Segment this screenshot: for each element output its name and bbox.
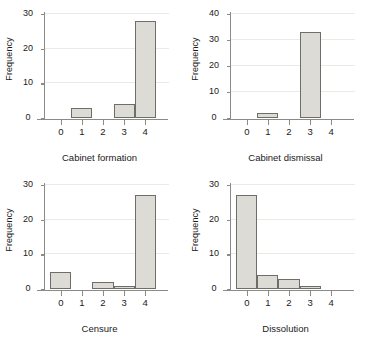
bar [300, 286, 321, 289]
y-tick [227, 185, 231, 186]
y-tick-label: 30 [204, 34, 224, 44]
y-tick-label: 10 [204, 86, 224, 96]
y-tick-label: 20 [18, 214, 38, 224]
plot-area [231, 14, 347, 118]
x-axis-title: Censure [18, 323, 181, 334]
chart-panel-1: 010203001234FrequencyCabinet formation [0, 0, 185, 171]
y-tick-label: 40 [204, 8, 224, 18]
y-axis-title-text: Frequency [190, 208, 200, 251]
bar [135, 195, 156, 289]
chart-panel-3: 010203001234FrequencyCensure [0, 171, 185, 342]
bar [135, 21, 156, 118]
x-tick [331, 120, 332, 125]
y-tick [41, 118, 45, 119]
x-tick-label: 4 [137, 126, 153, 137]
x-tick [247, 120, 248, 125]
x-tick-label: 1 [74, 126, 90, 137]
y-tick-label: 30 [18, 179, 38, 189]
x-tick [145, 120, 146, 125]
gridline [231, 91, 355, 92]
x-tick [124, 120, 125, 125]
gridline [231, 13, 355, 14]
x-tick-label: 4 [137, 297, 153, 308]
y-tick-label: 0 [18, 283, 38, 293]
gridline [45, 13, 169, 14]
x-tick-label: 1 [260, 126, 276, 137]
bar [114, 286, 135, 289]
bar [71, 108, 92, 118]
x-tick-label: 4 [323, 126, 339, 137]
bar [50, 272, 71, 289]
bar [257, 113, 278, 118]
x-tick [103, 120, 104, 125]
x-tick-label: 3 [302, 126, 318, 137]
chart-panel-4: 010203001234FrequencyDissolution [186, 171, 371, 342]
x-tick [61, 120, 62, 125]
y-tick-label: 20 [18, 43, 38, 53]
x-tick-label: 2 [95, 126, 111, 137]
x-tick-label: 0 [53, 126, 69, 137]
bar [278, 279, 299, 289]
x-tick-label: 3 [302, 297, 318, 308]
y-axis-title: Frequency [188, 0, 202, 118]
y-tick [227, 14, 231, 15]
y-axis-line [44, 12, 45, 120]
x-tick [124, 291, 125, 296]
y-tick [227, 289, 231, 290]
x-axis-title: Cabinet formation [18, 152, 181, 163]
y-tick [41, 14, 45, 15]
y-tick [227, 220, 231, 221]
y-axis-title: Frequency [188, 171, 202, 289]
x-tick-label: 2 [281, 297, 297, 308]
x-tick-label: 3 [116, 126, 132, 137]
gridline [45, 184, 169, 185]
x-tick-label: 1 [260, 297, 276, 308]
y-tick-label: 10 [18, 77, 38, 87]
y-tick [41, 185, 45, 186]
x-tick-label: 0 [53, 297, 69, 308]
x-tick [310, 291, 311, 296]
x-axis-title: Cabinet dismissal [204, 152, 367, 163]
bar [114, 104, 135, 118]
bar [236, 195, 257, 289]
bar [300, 32, 321, 118]
x-tick-label: 1 [74, 297, 90, 308]
gridline [231, 65, 355, 66]
y-tick-label: 20 [204, 60, 224, 70]
x-tick [289, 291, 290, 296]
y-axis-title-text: Frequency [190, 37, 200, 80]
x-tick-label: 4 [323, 297, 339, 308]
y-tick [227, 254, 231, 255]
chart-panel-2: 01020304001234FrequencyCabinet dismissal [186, 0, 371, 171]
x-tick-label: 2 [281, 126, 297, 137]
y-tick [41, 289, 45, 290]
y-tick [227, 118, 231, 119]
gridline [231, 39, 355, 40]
x-tick [247, 291, 248, 296]
plot-area [231, 185, 347, 289]
y-tick-label: 0 [18, 112, 38, 122]
x-tick-label: 3 [116, 297, 132, 308]
y-tick-label: 0 [204, 112, 224, 122]
x-tick [331, 291, 332, 296]
y-axis-line [230, 183, 231, 291]
y-tick-label: 30 [204, 179, 224, 189]
y-tick [227, 40, 231, 41]
x-tick [268, 291, 269, 296]
y-axis-title-text: Frequency [4, 208, 14, 251]
x-tick [103, 291, 104, 296]
x-tick-label: 0 [239, 126, 255, 137]
plot-area [45, 14, 161, 118]
x-axis-title: Dissolution [204, 323, 367, 334]
y-tick-label: 30 [18, 8, 38, 18]
gridline [231, 184, 355, 185]
y-axis-line [44, 183, 45, 291]
y-tick [227, 92, 231, 93]
y-axis-title-text: Frequency [4, 37, 14, 80]
x-tick [310, 120, 311, 125]
y-axis-title: Frequency [2, 171, 16, 289]
histogram-figure: 010203001234FrequencyCabinet formation01… [0, 0, 371, 342]
y-tick [41, 220, 45, 221]
x-tick [289, 120, 290, 125]
y-tick-label: 20 [204, 214, 224, 224]
